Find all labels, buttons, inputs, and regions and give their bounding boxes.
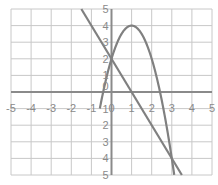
y-tick-label: 1	[102, 69, 108, 81]
y-tick-label: 4	[102, 152, 108, 164]
x-tick-label: 0	[108, 102, 114, 114]
x-tick-label: -5	[6, 102, 16, 114]
x-tick-label: 4	[189, 102, 195, 114]
x-tick-label: -3	[46, 102, 56, 114]
x-tick-labels: -5-4-3-2-1012345	[6, 102, 215, 114]
y-tick-label: 1	[102, 103, 108, 115]
y-tick-label: 0	[102, 80, 108, 92]
y-tick-label: 5	[102, 3, 108, 15]
y-tick-label: 2	[102, 119, 108, 131]
y-tick-label: 3	[102, 36, 108, 48]
x-tick-label: -2	[66, 102, 76, 114]
x-tick-label: 3	[169, 102, 175, 114]
function-graph: -5-4-3-2-1012345 54321012345	[0, 0, 218, 185]
x-tick-label: -1	[87, 102, 97, 114]
y-tick-label: 2	[102, 53, 108, 65]
x-tick-label: 1	[129, 102, 135, 114]
y-tick-label: 5	[102, 169, 108, 181]
x-tick-label: -4	[26, 102, 36, 114]
x-tick-label: 2	[149, 102, 155, 114]
y-tick-label: 3	[102, 136, 108, 148]
axes	[11, 9, 212, 175]
x-tick-label: 5	[209, 102, 215, 114]
y-tick-label: 4	[102, 20, 108, 32]
